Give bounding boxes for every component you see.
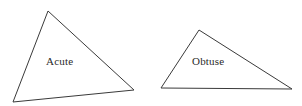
obtuse-triangle-outline [161,30,292,89]
acute-triangle-outline [13,11,134,102]
triangle-classification-figure: Acute Obtuse [0,0,302,106]
shapes-canvas [0,0,302,106]
obtuse-triangle-label: Obtuse [192,56,224,67]
acute-triangle-label: Acute [46,56,73,67]
